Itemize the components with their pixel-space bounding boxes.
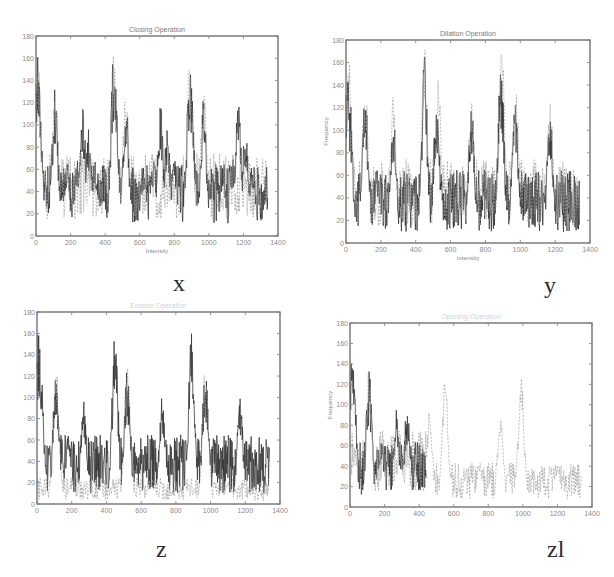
chart-title: Dilation Operation [440,30,496,38]
y-tick-label: 160 [336,340,348,347]
x-tick-label: 1200 [547,246,563,253]
y-tick-label: 20 [336,217,344,224]
y-tick-label: 40 [340,463,348,470]
y-tick-label: 0 [30,233,34,240]
x-tick-label: 1200 [236,239,252,246]
x-tick-label: 1400 [270,239,286,246]
y-tick-label: 160 [22,55,34,62]
caption-x: x [173,270,185,297]
chart-title: Erosion Operation [130,302,187,310]
y-tick-label: 0 [31,501,35,508]
caption-y: y [544,272,556,299]
figure: 0200400600800100012001400020406080100120… [0,0,614,577]
x-tick-label: 1000 [512,246,528,253]
x-tick-label: 600 [134,239,146,246]
x-tick-label: 1200 [550,510,566,517]
y-tick-label: 100 [22,121,34,128]
y-tick-label: 160 [332,59,344,66]
chart-title: Opening Operation [441,313,500,321]
x-tick-label: 0 [344,246,348,253]
y-tick-label: 140 [23,351,35,358]
y-tick-label: 40 [336,194,344,201]
y-tick-label: 100 [332,127,344,134]
y-tick-label: 140 [22,77,34,84]
y-tick-label: 80 [340,422,348,429]
x-tick-label: 0 [34,239,38,246]
y-tick-label: 60 [27,437,35,444]
y-tick-label: 60 [26,166,34,173]
x-tick-label: 400 [410,246,422,253]
y-tick-label: 140 [332,82,344,89]
y-tick-label: 60 [336,172,344,179]
y-tick-label: 100 [336,401,348,408]
x-tick-label: 600 [135,507,147,514]
x-tick-label: 400 [413,510,425,517]
y-tick-label: 120 [336,381,348,388]
x-tick-label: 800 [168,239,180,246]
x-axis-label: Intensity [457,255,479,261]
chart-title: Closing Operation [129,26,185,34]
chart-panel-dilation: 0200400600800100012001400020406080100120… [323,30,598,261]
x-tick-label: 800 [482,510,494,517]
y-tick-label: 120 [22,99,34,106]
y-tick-label: 40 [26,188,34,195]
y-tick-label: 160 [23,330,35,337]
x-tick-label: 1000 [201,239,217,246]
caption-zl: zl [547,536,564,563]
x-tick-label: 1000 [515,510,531,517]
y-tick-label: 20 [340,483,348,490]
y-tick-label: 120 [332,104,344,111]
x-tick-label: 200 [66,507,78,514]
caption-z: z [156,536,167,563]
y-tick-label: 140 [336,360,348,367]
y-axis-label: Frequency [327,391,333,419]
x-tick-label: 1000 [203,507,219,514]
x-tick-label: 1400 [582,246,598,253]
y-tick-label: 60 [340,442,348,449]
x-tick-label: 600 [445,246,457,253]
x-tick-label: 1400 [584,510,600,517]
chart-panel-opening: 0200400600800100012001400020406080100120… [327,313,600,517]
x-tick-label: 400 [99,239,111,246]
y-tick-label: 80 [26,144,34,151]
x-tick-label: 1400 [272,507,288,514]
x-tick-label: 600 [448,510,460,517]
y-tick-label: 180 [22,33,34,40]
chart-panel-closing: 0200400600800100012001400020406080100120… [22,26,286,254]
y-tick-label: 180 [23,309,35,316]
y-tick-label: 20 [27,479,35,486]
y-tick-label: 40 [27,458,35,465]
x-tick-label: 200 [65,239,77,246]
y-tick-label: 120 [23,373,35,380]
x-tick-label: 0 [35,507,39,514]
x-tick-label: 800 [170,507,182,514]
y-tick-label: 180 [336,320,348,327]
y-tick-label: 0 [344,504,348,511]
x-tick-label: 1200 [237,507,253,514]
plot-frame [346,40,590,243]
y-tick-label: 0 [340,240,344,247]
chart-panel-erosion: 0200400600800100012001400020406080100120… [23,302,288,514]
y-tick-label: 80 [27,415,35,422]
y-tick-label: 80 [336,149,344,156]
y-tick-label: 20 [26,210,34,217]
x-tick-label: 200 [375,246,387,253]
x-tick-label: 0 [348,510,352,517]
y-tick-label: 100 [23,394,35,401]
y-axis-label: Frequency [323,117,329,145]
x-axis-label: Intensity [146,248,168,254]
x-tick-label: 800 [480,246,492,253]
x-tick-label: 400 [101,507,113,514]
y-tick-label: 180 [332,37,344,44]
x-tick-label: 200 [379,510,391,517]
